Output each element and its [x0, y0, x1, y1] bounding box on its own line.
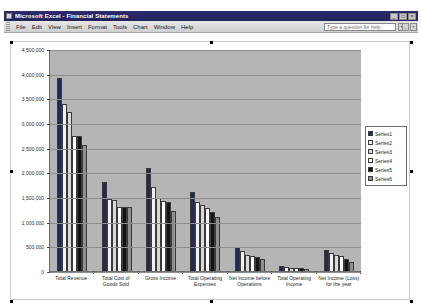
y-axis-tick-label: 1,500,000 — [22, 195, 44, 201]
legend-label: Series3 — [375, 149, 392, 155]
chart-legend[interactable]: Series1Series2Series3Series4Series5Serie… — [365, 126, 407, 186]
y-axis-tick-mark — [47, 173, 50, 174]
x-axis-tick-label: Total Cost of Goods Sold — [94, 275, 139, 301]
menu-grip-handle[interactable] — [6, 22, 10, 31]
gridline — [50, 75, 361, 76]
bar[interactable] — [171, 211, 176, 271]
menu-item-chart[interactable]: Chart — [130, 22, 151, 32]
bar[interactable] — [127, 207, 132, 271]
x-axis-tick-label: Net Income (Loss) for the year — [316, 275, 361, 301]
y-axis-tick-label: 0 — [41, 269, 44, 275]
legend-swatch — [368, 158, 373, 163]
ask-a-question-input[interactable]: Type a question for help — [324, 23, 396, 31]
legend-label: Series5 — [375, 167, 392, 173]
y-axis-tick-mark — [47, 149, 50, 150]
bottom-strip — [0, 302, 421, 306]
menu-item-help[interactable]: Help — [178, 22, 196, 32]
legend-label: Series1 — [375, 131, 392, 137]
legend-label: Series6 — [375, 176, 392, 182]
selection-handle[interactable] — [210, 300, 213, 303]
document-window-controls: _ × — [402, 23, 417, 31]
legend-item[interactable]: Series3 — [368, 147, 404, 156]
chart-object[interactable]: 4,500,0004,000,0003,500,0003,000,0002,50… — [10, 41, 410, 300]
legend-item[interactable]: Series5 — [368, 165, 404, 174]
selection-handle[interactable] — [10, 170, 13, 173]
y-axis-tick-mark — [47, 99, 50, 100]
x-axis: Total RevenueTotal Cost of Goods SoldGro… — [49, 275, 361, 301]
y-axis-tick-mark — [47, 75, 50, 76]
gridline — [50, 198, 361, 199]
ask-a-question-text: Type a question for help — [327, 24, 380, 30]
y-axis-tick-label: 500,000 — [26, 244, 44, 250]
menu-item-format[interactable]: Format — [85, 22, 110, 32]
legend-swatch — [368, 140, 373, 145]
gridline — [50, 99, 361, 100]
gridline — [50, 247, 361, 248]
gridline — [50, 50, 361, 51]
selection-handle[interactable] — [410, 41, 413, 44]
bar[interactable] — [260, 259, 265, 271]
gridline — [50, 124, 361, 125]
bar[interactable] — [215, 217, 220, 271]
x-axis-tick-label: Net Income before Operations — [227, 275, 272, 301]
bar-groups — [50, 50, 361, 271]
legend-item[interactable]: Series6 — [368, 174, 404, 183]
restore-button[interactable]: □ — [399, 13, 407, 20]
y-axis-tick-label: 4,500,000 — [22, 47, 44, 53]
y-axis-tick-mark — [47, 272, 50, 273]
bar[interactable] — [82, 145, 87, 271]
x-axis-tick-label: Total Operating Income — [272, 275, 317, 301]
y-axis-tick-label: 4,000,000 — [22, 72, 44, 78]
document-close-button[interactable]: × — [410, 23, 417, 31]
legend-swatch — [368, 131, 373, 136]
selection-handle[interactable] — [410, 170, 413, 173]
selection-handle[interactable] — [10, 300, 13, 303]
close-button[interactable]: × — [408, 13, 416, 20]
menu-item-file[interactable]: File — [13, 22, 29, 32]
y-axis-tick-mark — [47, 223, 50, 224]
menu-item-view[interactable]: View — [45, 22, 64, 32]
gridline — [50, 223, 361, 224]
minimize-button[interactable]: _ — [390, 13, 398, 20]
y-axis: 4,500,0004,000,0003,500,0003,000,0002,50… — [11, 50, 47, 272]
excel-window: Microsoft Excel - Financial Statements _… — [0, 0, 421, 306]
menu-item-window[interactable]: Window — [151, 22, 178, 32]
y-axis-tick-mark — [47, 124, 50, 125]
menu-bar: File Edit View Insert Format Tools Chart… — [4, 21, 418, 33]
x-axis-tick-label: Gross Income — [138, 275, 183, 301]
menu-item-edit[interactable]: Edit — [29, 22, 45, 32]
bar-group — [50, 50, 94, 271]
menu-item-tools[interactable]: Tools — [110, 22, 130, 32]
legend-label: Series4 — [375, 158, 392, 164]
y-axis-tick-mark — [47, 247, 50, 248]
y-axis-tick-label: 2,000,000 — [22, 170, 44, 176]
menu-item-insert[interactable]: Insert — [64, 22, 85, 32]
title-bar: Microsoft Excel - Financial Statements _… — [4, 11, 418, 21]
y-axis-tick-label: 2,500,000 — [22, 146, 44, 152]
window-controls: _ □ × — [390, 13, 416, 20]
selection-handle[interactable] — [410, 300, 413, 303]
legend-item[interactable]: Series2 — [368, 138, 404, 147]
bar[interactable] — [349, 262, 354, 271]
legend-item[interactable]: Series4 — [368, 156, 404, 165]
y-axis-tick-mark — [47, 50, 50, 51]
legend-item[interactable]: Series1 — [368, 129, 404, 138]
selection-handle[interactable] — [10, 41, 13, 44]
y-axis-tick-label: 3,000,000 — [22, 121, 44, 127]
excel-icon — [6, 13, 12, 19]
selection-handle[interactable] — [210, 41, 213, 44]
x-axis-tick-label: Total Operating Expenses — [183, 275, 228, 301]
legend-swatch — [368, 167, 373, 172]
gridline — [50, 272, 361, 273]
x-axis-tick-label: Total Revenue — [49, 275, 94, 301]
bar-group — [94, 50, 138, 271]
document-minimize-button[interactable]: _ — [402, 23, 409, 31]
gridline — [50, 173, 361, 174]
plot-area[interactable] — [49, 50, 361, 272]
bar-group — [272, 50, 316, 271]
window-title: Microsoft Excel - Financial Statements — [15, 13, 390, 20]
bar[interactable] — [304, 269, 309, 271]
y-axis-tick-label: 1,000,000 — [22, 220, 44, 226]
chart-area[interactable]: 4,500,0004,000,0003,500,0003,000,0002,50… — [11, 42, 409, 299]
legend-label: Series2 — [375, 140, 392, 146]
